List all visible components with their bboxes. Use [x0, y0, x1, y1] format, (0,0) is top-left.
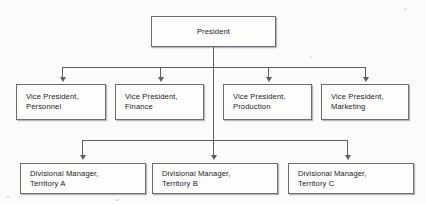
arrowhead-vp-production — [266, 77, 272, 82]
arrowhead-vp-finance — [158, 77, 164, 82]
node-vice-president-marketing[interactable]: Vice President, Marketing — [321, 84, 409, 120]
arrowhead-territory-a — [80, 155, 86, 160]
node-divisional-manager-territory-a[interactable]: Divisional Manager, Territory A — [20, 163, 146, 194]
node-divisional-manager-territory-c-label: Divisional Manager, Territory C — [298, 168, 407, 188]
arrowhead-vp-marketing — [363, 77, 369, 82]
connector-drop-territory-c — [347, 140, 348, 155]
connector-drop-territory-a — [82, 140, 83, 155]
node-vice-president-marketing-label: Vice President, Marketing — [331, 92, 402, 112]
scan-speck — [116, 199, 119, 201]
connector-president-stem — [213, 47, 214, 67]
node-vice-president-finance-label: Vice President, Finance — [125, 92, 197, 112]
connector-president-trunk — [213, 67, 214, 157]
arrowhead-vp-personnel — [60, 77, 66, 82]
connector-dm-bus — [82, 140, 347, 141]
arrowhead-territory-b — [211, 155, 217, 160]
connector-vp-bus — [62, 67, 366, 68]
node-divisional-manager-territory-a-label: Divisional Manager, Territory A — [30, 168, 139, 188]
node-president-label: President — [152, 26, 275, 36]
node-vice-president-production[interactable]: Vice President, Production — [223, 84, 312, 120]
node-divisional-manager-territory-b-label: Divisional Manager, Territory B — [162, 168, 271, 188]
node-president[interactable]: President — [151, 16, 276, 47]
node-divisional-manager-territory-b[interactable]: Divisional Manager, Territory B — [152, 163, 278, 194]
arrowhead-territory-c — [345, 155, 351, 160]
org-chart-diagram: President Vice President, Personnel Vice… — [0, 0, 426, 204]
node-vice-president-personnel[interactable]: Vice President, Personnel — [16, 84, 106, 120]
node-vice-president-production-label: Vice President, Production — [233, 92, 305, 112]
node-vice-president-finance[interactable]: Vice President, Finance — [115, 84, 204, 120]
scan-speck — [6, 196, 10, 198]
node-vice-president-personnel-label: Vice President, Personnel — [26, 92, 99, 112]
scan-speck — [404, 8, 407, 10]
scan-speck — [310, 56, 312, 58]
node-divisional-manager-territory-c[interactable]: Divisional Manager, Territory C — [288, 163, 414, 194]
